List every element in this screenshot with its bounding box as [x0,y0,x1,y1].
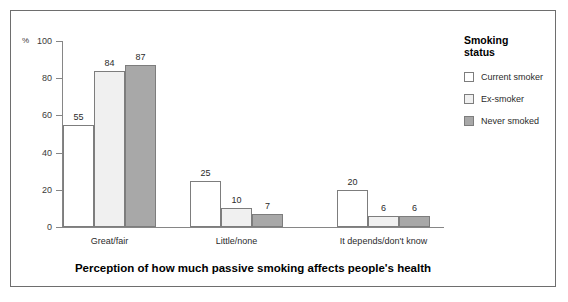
bar [252,214,283,227]
legend-swatch [464,72,474,82]
legend-swatch [464,94,474,104]
y-axis-tick [56,227,62,228]
y-axis-tick-label: 0 [12,222,52,232]
bar [368,216,399,227]
bar [63,125,94,227]
bar [399,216,430,227]
legend-label: Current smoker [481,72,543,82]
y-axis-tick-label: 100 [12,36,52,46]
legend-title: Smoking status [464,34,559,58]
legend-item: Current smoker [464,71,559,82]
legend-items: Current smokerEx-smokerNever smoked [464,71,559,126]
y-axis-tick-label: 80 [12,73,52,83]
y-axis-tick-label: 60 [12,110,52,120]
chart-legend: Smoking status Current smokerEx-smokerNe… [464,34,559,137]
bar [125,65,156,227]
legend-label: Ex-smoker [481,94,524,104]
x-axis-line [62,227,444,228]
bar [221,208,252,227]
bar-value-label: 55 [57,112,100,122]
bar-value-label: 7 [246,201,289,211]
bar [94,71,125,227]
legend-swatch [464,116,474,126]
bar-value-label: 87 [119,52,162,62]
bar-value-label: 6 [393,203,436,213]
x-axis-title: Perception of how much passive smoking a… [62,262,444,274]
legend-item: Never smoked [464,115,559,126]
x-axis-category-label: It depends/don't know [297,236,470,246]
legend-label: Never smoked [481,116,539,126]
y-axis-tick-label: 20 [12,185,52,195]
chart-figure: % 020406080100 Great/fairLittle/noneIt d… [0,0,568,302]
y-axis-tick-label: 40 [12,148,52,158]
legend-item: Ex-smoker [464,93,559,104]
bar-value-label: 25 [184,168,227,178]
bar-value-label: 20 [331,177,374,187]
